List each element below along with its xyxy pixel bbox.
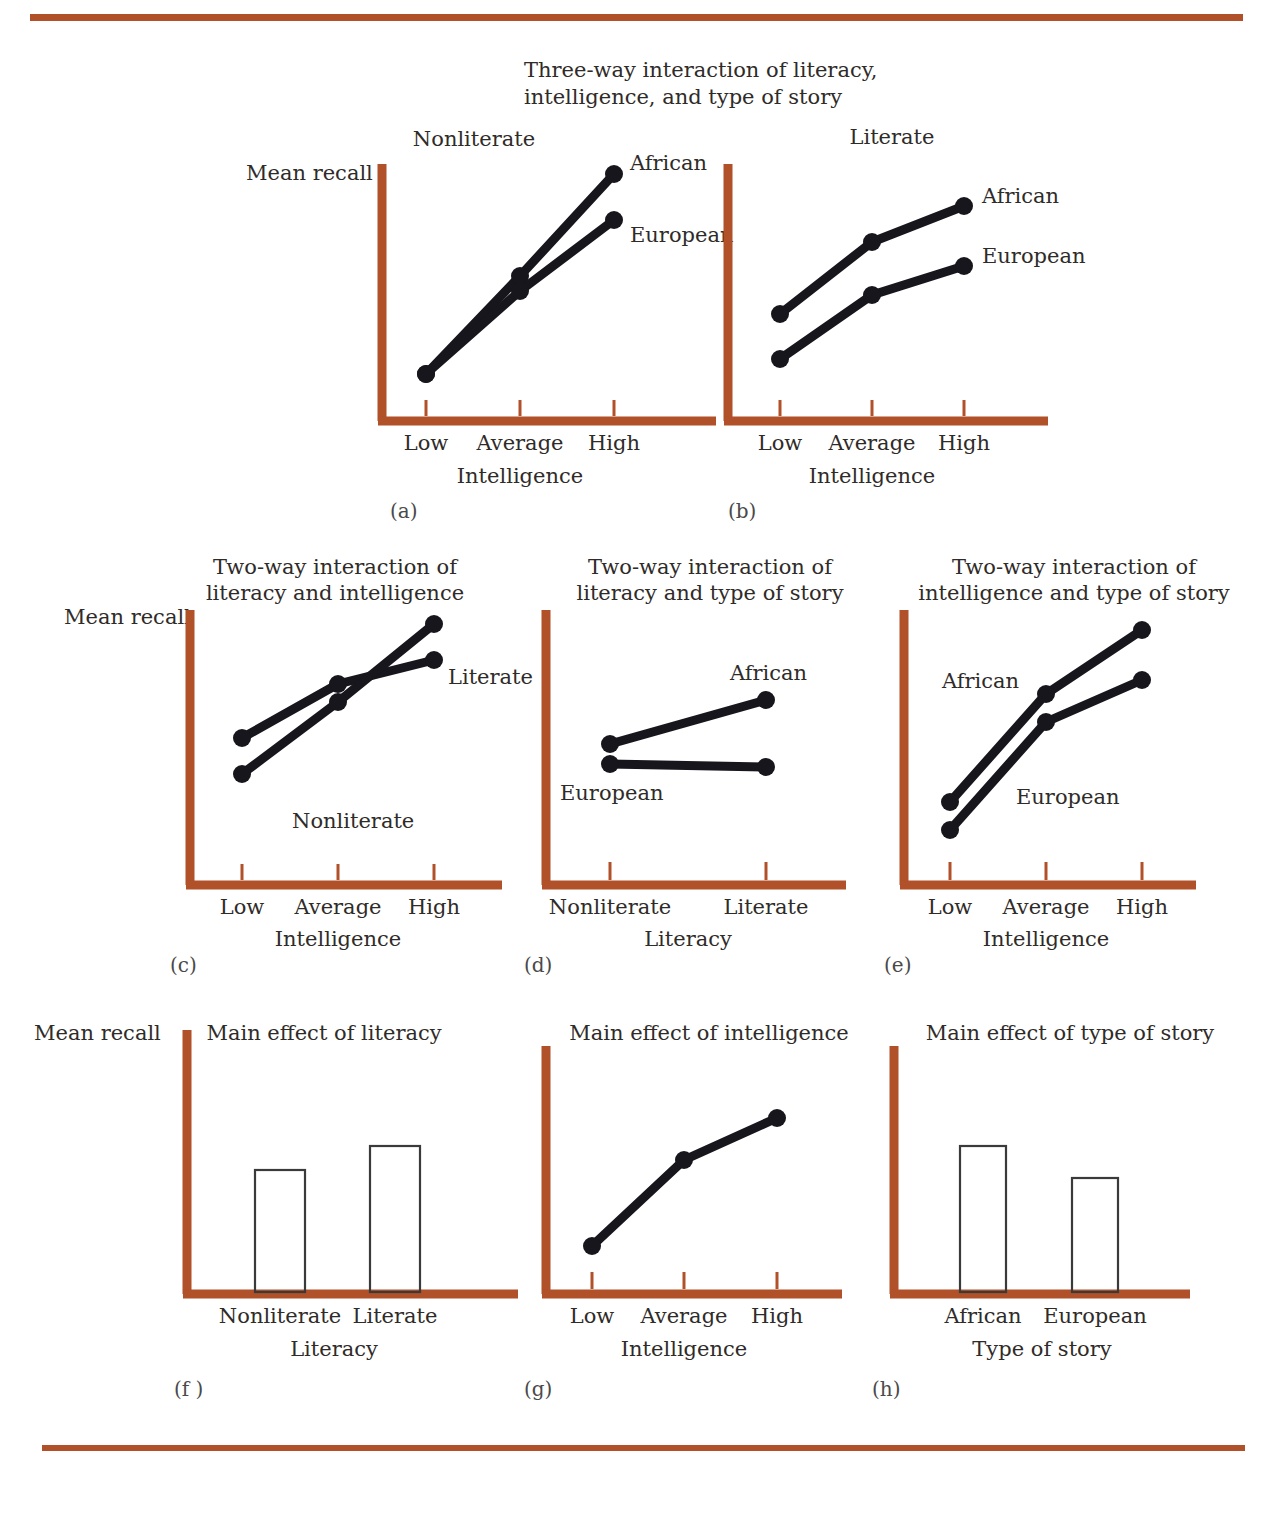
- panel-a-label-african: African: [629, 151, 707, 175]
- panel-d-point-african-nonliterate: [601, 735, 619, 753]
- panel-b-series-european: [780, 266, 964, 359]
- panel-d-series-african: [610, 700, 766, 744]
- panel-c-point-literate-low: [233, 729, 251, 747]
- panel-c-letter: (c): [170, 953, 197, 977]
- panel-c-point-nonliterate-high: [425, 615, 443, 633]
- panel-b-x-axis-label: Intelligence: [809, 464, 935, 488]
- panel-c-label-nonliterate: Nonliterate: [292, 809, 414, 833]
- panel-c-xtick-average: Average: [293, 895, 381, 919]
- panel-d-x-axis-label: Literacy: [644, 927, 732, 951]
- panel-c-point-literate-high: [425, 651, 443, 669]
- panel-b-point-african-high: [955, 197, 973, 215]
- panel-a: Nonliterate Mean recall African European…: [230, 128, 750, 528]
- panel-e-label-african: African: [941, 669, 1019, 693]
- panel-g-xtick-high: High: [751, 1304, 803, 1328]
- panel-e-point-european-average: [1037, 713, 1055, 731]
- figure-title-line-2: intelligence, and type of story: [524, 85, 842, 109]
- panel-e-title-line-1: Two-way interaction of: [952, 555, 1198, 579]
- panel-g-xtick-low: Low: [570, 1304, 615, 1328]
- panel-a-letter: (a): [390, 499, 418, 523]
- panel-a-xtick-low: Low: [404, 431, 449, 455]
- panel-d-xtick-nonliterate: Nonliterate: [549, 895, 671, 919]
- panel-b: Literate African European Low Average Hi…: [700, 118, 1220, 528]
- panel-e-xtick-low: Low: [928, 895, 973, 919]
- panel-g-series-main: [592, 1118, 777, 1246]
- panel-b-label-african: African: [981, 184, 1059, 208]
- panel-g-xtick-average: Average: [639, 1304, 727, 1328]
- panel-h-title: Main effect of type of story: [926, 1021, 1215, 1045]
- panel-h-xtick-african: African: [943, 1304, 1021, 1328]
- panel-e-xtick-average: Average: [1001, 895, 1089, 919]
- panel-d-series-european: [610, 764, 766, 767]
- panel-g-point-average: [675, 1151, 693, 1169]
- panel-b-xtick-low: Low: [758, 431, 803, 455]
- panel-a-point-european-average: [511, 282, 529, 300]
- panel-g-title: Main effect of intelligence: [569, 1021, 849, 1045]
- panel-f-letter: (f ): [174, 1377, 203, 1401]
- panel-h-bar-european: [1072, 1178, 1118, 1292]
- panel-a-subtitle: Nonliterate: [413, 127, 535, 151]
- panel-d-xtick-literate: Literate: [724, 895, 809, 919]
- figure-title: Three-way interaction of literacy, intel…: [0, 55, 1276, 115]
- panel-h: Main effect of type of story African Eur…: [872, 1018, 1272, 1418]
- panel-b-letter: (b): [728, 499, 756, 523]
- panel-a-point-european-low: [417, 365, 435, 383]
- panel-d-label-european: European: [560, 781, 663, 805]
- panel-f-x-axis-label: Literacy: [290, 1337, 378, 1361]
- panel-h-x-axis-label: Type of story: [972, 1337, 1111, 1361]
- panel-h-letter: (h): [872, 1377, 901, 1401]
- panel-d-point-african-literate: [757, 691, 775, 709]
- panel-e: Two-way interaction of intelligence and …: [884, 552, 1276, 972]
- panel-g-point-high: [768, 1109, 786, 1127]
- panel-b-label-european: European: [982, 244, 1085, 268]
- panel-f: Main effect of literacy Mean recall Nonl…: [34, 1018, 534, 1418]
- panel-c-y-axis-label: Mean recall: [64, 605, 191, 629]
- panel-c-point-literate-average: [329, 675, 347, 693]
- panel-d: Two-way interaction of literacy and type…: [524, 552, 924, 972]
- panel-c-xtick-high: High: [408, 895, 460, 919]
- panel-d-letter: (d): [524, 953, 552, 977]
- panel-f-bar-nonliterate: [255, 1170, 305, 1292]
- panel-e-x-axis-label: Intelligence: [983, 927, 1109, 951]
- panel-b-point-european-low: [771, 350, 789, 368]
- panel-a-xtick-average: Average: [475, 431, 563, 455]
- panel-a-y-axis-label: Mean recall: [246, 161, 373, 185]
- panel-e-letter: (e): [884, 953, 911, 977]
- panel-f-bar-literate: [370, 1146, 420, 1292]
- panel-a-xtick-high: High: [588, 431, 640, 455]
- panel-f-xtick-literate: Literate: [353, 1304, 438, 1328]
- panel-g-x-axis-label: Intelligence: [621, 1337, 747, 1361]
- panel-d-label-african: African: [729, 661, 807, 685]
- top-horizontal-rule: [30, 14, 1243, 21]
- panel-e-point-african-average: [1037, 685, 1055, 703]
- panel-a-point-european-high: [605, 211, 623, 229]
- figure-title-line-1: Three-way interaction of literacy,: [524, 58, 877, 82]
- panel-c-x-axis-label: Intelligence: [275, 927, 401, 951]
- panel-f-y-axis-label: Mean recall: [34, 1021, 161, 1045]
- panel-a-x-axis-label: Intelligence: [457, 464, 583, 488]
- panel-c-title-line-2: literacy and intelligence: [206, 581, 464, 605]
- panel-e-title-line-2: intelligence and type of story: [918, 581, 1230, 605]
- panel-g-letter: (g): [524, 1377, 552, 1401]
- panel-h-bar-african: [960, 1146, 1006, 1292]
- panel-b-xtick-average: Average: [827, 431, 915, 455]
- panel-e-xtick-high: High: [1116, 895, 1168, 919]
- panel-f-title: Main effect of literacy: [206, 1021, 441, 1045]
- panel-c-point-nonliterate-low: [233, 765, 251, 783]
- panel-c: Two-way interaction of literacy and inte…: [60, 552, 530, 972]
- panel-c-label-literate: Literate: [448, 665, 533, 689]
- panel-c-point-nonliterate-average: [329, 693, 347, 711]
- panel-h-xtick-european: European: [1043, 1304, 1146, 1328]
- panel-g-point-low: [583, 1237, 601, 1255]
- panel-b-point-african-low: [771, 305, 789, 323]
- panel-e-point-european-high: [1133, 671, 1151, 689]
- panel-g: Main effect of intelligence Low Average …: [524, 1018, 914, 1418]
- panel-c-xtick-low: Low: [220, 895, 265, 919]
- panel-b-point-european-high: [955, 257, 973, 275]
- panel-d-point-european-nonliterate: [601, 755, 619, 773]
- panel-f-xtick-nonliterate: Nonliterate: [219, 1304, 341, 1328]
- panel-d-title-line-2: literacy and type of story: [576, 581, 843, 605]
- panel-e-point-african-low: [941, 793, 959, 811]
- panel-a-point-african-high: [605, 165, 623, 183]
- panel-c-title-line-1: Two-way interaction of: [213, 555, 459, 579]
